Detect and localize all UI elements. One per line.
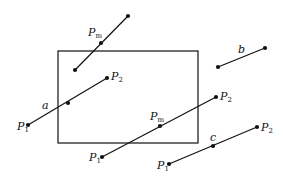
midpoint-dot — [66, 101, 70, 105]
endpoint-dot — [126, 14, 130, 18]
top-segment: Pm — [73, 14, 130, 72]
clipping-diagram: PmaP1P2bP1PmP2cP1P2 — [0, 0, 283, 183]
point-label: P2 — [219, 90, 232, 104]
endpoint-dot — [255, 125, 259, 129]
segment-c: cP1P2 — [156, 121, 273, 173]
midpoint-dot — [211, 144, 215, 148]
segment-a: aP1P2 — [16, 70, 123, 134]
endpoint-dot — [263, 46, 267, 50]
endpoint-dot — [73, 68, 77, 72]
midpoint-dot — [99, 41, 103, 45]
point-label: P2 — [260, 121, 273, 135]
midpoint-dot — [158, 124, 162, 128]
center-segment: P1PmP2 — [88, 90, 232, 165]
point-label: Pm — [87, 26, 102, 40]
clip-window — [58, 51, 198, 143]
point-label: P1 — [156, 159, 169, 173]
endpoint-dot — [216, 65, 220, 69]
point-label: c — [210, 131, 216, 144]
endpoint-dot — [214, 95, 218, 99]
segments: PmaP1P2bP1PmP2cP1P2 — [16, 14, 273, 173]
point-label: P1 — [16, 120, 29, 134]
point-label: a — [42, 99, 49, 112]
point-label: P2 — [110, 70, 123, 84]
point-label: Pm — [149, 110, 164, 124]
segment-b: b — [216, 43, 267, 69]
point-label: P1 — [88, 151, 101, 165]
endpoint-dot — [105, 76, 109, 80]
point-label: b — [238, 43, 245, 56]
